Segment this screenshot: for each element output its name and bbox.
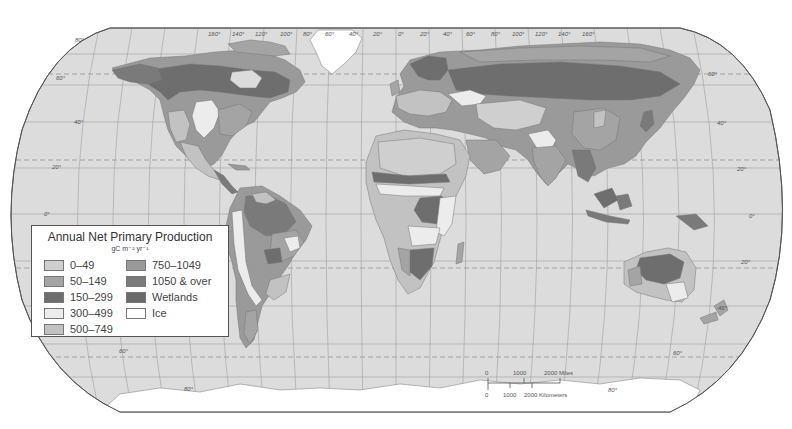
scale-bar-lines	[484, 378, 584, 392]
lat-label: 40°	[717, 120, 726, 126]
legend: Annual Net Primary Production gC m⁻² yr⁻…	[31, 225, 229, 337]
lat-label: 0°	[44, 211, 50, 217]
lon-label: 120°	[535, 31, 547, 37]
lat-label: 20°	[737, 166, 746, 172]
lat-label: 40°	[74, 119, 83, 125]
legend-label: 300–499	[70, 307, 113, 319]
lat-label: 80°	[75, 37, 84, 43]
lat-label: 60°	[56, 75, 65, 81]
legend-swatch	[44, 324, 64, 335]
lat-label: 60°	[119, 348, 128, 354]
legend-swatch	[126, 308, 146, 319]
legend-label: 750–1049	[152, 259, 201, 271]
scale-miles-2000: 2000 Miles	[544, 370, 573, 376]
lat-label: 20°	[52, 164, 61, 170]
lon-label: 100°	[280, 31, 292, 37]
legend-swatch	[126, 292, 146, 303]
lat-label: 60°	[673, 350, 682, 356]
lon-label: 40°	[443, 31, 452, 37]
world-npp-map	[0, 0, 792, 429]
lon-label: 20°	[420, 31, 429, 37]
lon-label: 140°	[558, 31, 570, 37]
lon-label: 0°	[398, 31, 404, 37]
lon-label: 120°	[255, 31, 267, 37]
lon-label: 140°	[232, 31, 244, 37]
legend-swatch	[44, 260, 64, 271]
legend-label: 0–49	[70, 259, 94, 271]
lat-label: 80°	[184, 386, 193, 392]
legend-item-50-149: 50–149	[44, 274, 107, 288]
scale-km-0: 0	[485, 392, 488, 398]
legend-label: 1050 & over	[152, 275, 211, 287]
scale-bar: 0 1000 2000 Miles 0 1000 2000 Kilometers	[484, 368, 584, 404]
lon-label: 60°	[325, 31, 334, 37]
legend-item-300-499: 300–499	[44, 306, 113, 320]
lat-label: 80°	[608, 387, 617, 393]
legend-item-500-749: 500–749	[44, 322, 113, 336]
legend-item-ice: Ice	[126, 306, 167, 320]
scale-km-2000: 2000 Kilometers	[524, 392, 567, 398]
legend-label: 50–149	[70, 275, 107, 287]
lon-label: 160°	[208, 31, 220, 37]
legend-item-1050-over: 1050 & over	[126, 274, 211, 288]
legend-label: Wetlands	[152, 291, 198, 303]
lon-label: 80°	[303, 31, 312, 37]
lat-label: 40°	[718, 305, 727, 311]
scale-miles-1000: 1000	[513, 370, 526, 376]
legend-label: 150–299	[70, 291, 113, 303]
lon-label: 160°	[582, 31, 594, 37]
lon-label: 100°	[512, 31, 524, 37]
legend-swatch	[44, 292, 64, 303]
scale-miles-0: 0	[485, 370, 488, 376]
legend-item-150-299: 150–299	[44, 290, 113, 304]
legend-swatch	[126, 260, 146, 271]
lon-label: 80°	[491, 31, 500, 37]
legend-swatch	[44, 276, 64, 287]
lat-label: 60°	[708, 71, 717, 77]
lat-label: 20°	[741, 259, 750, 265]
legend-swatch	[126, 276, 146, 287]
legend-item-0-49: 0–49	[44, 258, 94, 272]
lon-label: 40°	[349, 31, 358, 37]
legend-label: 500–749	[70, 323, 113, 335]
legend-item-wetlands: Wetlands	[126, 290, 198, 304]
legend-item-750-1049: 750–1049	[126, 258, 201, 272]
legend-swatch	[44, 308, 64, 319]
legend-label: Ice	[152, 307, 167, 319]
lon-label: 20°	[373, 31, 382, 37]
scale-km-1000: 1000	[503, 392, 516, 398]
legend-title: Annual Net Primary Production	[32, 230, 228, 244]
lat-label: 0°	[749, 213, 755, 219]
lon-label: 60°	[466, 31, 475, 37]
legend-unit: gC m⁻² yr⁻¹	[32, 245, 228, 253]
